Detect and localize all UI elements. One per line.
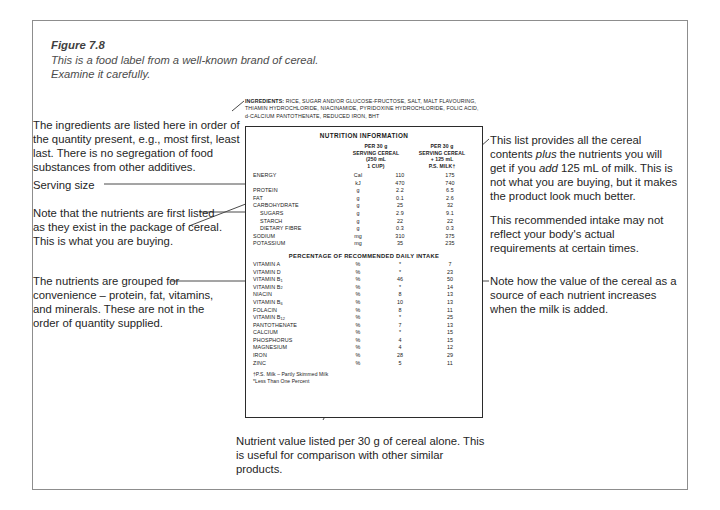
daily-intake-value-with-milk: 15 xyxy=(425,337,475,345)
nutrient-value-with-milk: 2.6 xyxy=(425,195,475,203)
daily-intake-name: VITAMIN B2 xyxy=(253,284,341,292)
nutrient-value-cereal: 2.2 xyxy=(375,187,425,195)
grouping-note-line3: and minerals. These are not in the xyxy=(33,302,248,316)
daily-intake-row: IRON%2829 xyxy=(253,352,475,360)
col1-line4: 1 CUP) xyxy=(343,163,409,170)
figure-caption-text: This is a food label from a well-known b… xyxy=(51,54,318,80)
daily-intake-unit: % xyxy=(341,307,375,315)
daily-intake-value-with-milk: 11 xyxy=(425,307,475,315)
nutrient-name: STARCH xyxy=(253,218,341,226)
daily-intake-value-cereal: 28 xyxy=(375,352,425,360)
nutrient-row: kJ470740 xyxy=(253,180,475,188)
footnote-milk: †P.S. Milk – Partly Skimmed Milk xyxy=(253,371,475,378)
daily-intake-row: ZINC%511 xyxy=(253,360,475,368)
nutrient-value-with-milk: 375 xyxy=(425,233,475,241)
daily-intake-value-cereal: 4 xyxy=(375,337,425,345)
nutrient-name: ENERGY xyxy=(253,172,341,180)
nutrient-name: PROTEIN xyxy=(253,187,341,195)
vitamin-subscript: 1 xyxy=(280,278,282,283)
annotation-bottom-note: Nutrient value listed per 30 g of cereal… xyxy=(236,434,546,476)
col2-line4: P.S. MILK† xyxy=(409,163,475,170)
daily-intake-unit: % xyxy=(341,291,375,299)
bottom-note-line1: Nutrient value listed per 30 g of cereal… xyxy=(236,434,546,448)
nutrient-name: POTASSIUM xyxy=(253,240,341,248)
daily-intake-value-with-milk: 13 xyxy=(425,291,475,299)
nutrient-name: FAT xyxy=(253,195,341,203)
figure-page: Figure 7.8 This is a food label from a w… xyxy=(0,0,720,510)
figure-caption: Figure 7.8 This is a food label from a w… xyxy=(51,38,351,82)
daily-intake-name: VITAMIN B6 xyxy=(253,299,341,307)
daily-intake-value-with-milk: 14 xyxy=(425,284,475,292)
grouping-note-line2: convenience – protein, fat, vitamins, xyxy=(33,288,248,302)
nutrient-row: FATg0.12.6 xyxy=(253,195,475,203)
milk-note-line2: contents plus the nutrients you will xyxy=(490,147,690,161)
daily-intake-row: MAGNESIUM%412 xyxy=(253,344,475,352)
daily-intake-row: NIACIN%813 xyxy=(253,291,475,299)
daily-intake-value-cereal: 10 xyxy=(375,299,425,307)
daily-intake-value-cereal: * xyxy=(375,284,425,292)
nutrient-row: PROTEINg2.26.5 xyxy=(253,187,475,195)
nutrient-value-with-milk: 22 xyxy=(425,218,475,226)
intake-note-line2: reflect your body's actual xyxy=(490,227,690,241)
nutrient-value-cereal: 22 xyxy=(375,218,425,226)
value-note-line1: Note how the value of the cereal as a xyxy=(490,274,695,288)
daily-intake-row: VITAMIN B12%*25 xyxy=(253,314,475,322)
daily-intake-value-cereal: * xyxy=(375,269,425,277)
nutrient-unit: g xyxy=(341,187,375,195)
nutrient-value-with-milk: 740 xyxy=(425,180,475,188)
daily-intake-unit: % xyxy=(341,299,375,307)
intake-note-line3: requirements at certain times. xyxy=(490,241,690,255)
intake-note-line1: This recommended intake may not xyxy=(490,213,690,227)
daily-intake-row: VITAMIN D%*23 xyxy=(253,269,475,277)
nutrient-unit: Cal xyxy=(341,172,375,180)
column-header-cereal: PER 30 g SERVING CEREAL (250 mL 1 CUP) xyxy=(343,143,409,169)
footnote-less-than-one: *Less Than One Percent xyxy=(253,378,475,385)
nutrient-value-cereal: 110 xyxy=(375,172,425,180)
daily-intake-value-cereal: * xyxy=(375,314,425,322)
nutrition-label-title: NUTRITION INFORMATION xyxy=(253,132,475,139)
milk-note-line3-post: 125 mL of milk. This is xyxy=(558,162,673,174)
daily-intake-unit: % xyxy=(341,284,375,292)
nutrient-row: CARBOHYDRATEg2532 xyxy=(253,202,475,210)
nutrient-value-cereal: 25 xyxy=(375,202,425,210)
nutrient-value-cereal: 2.9 xyxy=(375,210,425,218)
value-note-line2: source of each nutrient increases xyxy=(490,288,695,302)
daily-intake-value-with-milk: 23 xyxy=(425,269,475,277)
daily-intake-value-cereal: * xyxy=(375,261,425,269)
annotation-value-note: Note how the value of the cereal as a so… xyxy=(490,274,695,316)
daily-intake-value-cereal: 5 xyxy=(375,360,425,368)
nutrient-row: SUGARSg2.99.1 xyxy=(253,210,475,218)
package-note-line1: Note that the nutrients are first listed xyxy=(33,206,248,220)
ingredients-heading: INGREDIENTS: xyxy=(245,98,284,104)
daily-intake-value-cereal: 7 xyxy=(375,322,425,330)
milk-note-line2-post: the nutrients you will xyxy=(557,148,663,160)
daily-intake-unit: % xyxy=(341,322,375,330)
daily-intake-value-cereal: 8 xyxy=(375,307,425,315)
annotation-grouping-note: The nutrients are grouped for convenienc… xyxy=(33,274,248,330)
nutrient-name: SUGARS xyxy=(253,210,341,218)
figure-number: Figure 7.8 xyxy=(51,38,351,52)
nutrient-name: DIETARY FIBRE xyxy=(253,225,341,233)
daily-intake-name: VITAMIN B12 xyxy=(253,314,341,322)
nutrient-unit: g xyxy=(341,218,375,226)
package-note-line3: This is what you are buying. xyxy=(33,234,248,248)
ingredients-list: INGREDIENTS: RICE, SUGAR AND/OR GLUCOSE-… xyxy=(245,98,483,120)
bottom-note-line2: is useful for comparison with other simi… xyxy=(236,448,546,462)
grouping-note-line4: order of quantity supplied. xyxy=(33,316,248,330)
nutrient-value-with-milk: 175 xyxy=(425,172,475,180)
daily-intake-value-cereal: 46 xyxy=(375,276,425,284)
daily-intake-row: CALCIUM%*15 xyxy=(253,329,475,337)
milk-note-line2-pre: contents xyxy=(490,148,536,160)
nutrient-value-with-milk: 235 xyxy=(425,240,475,248)
vitamin-subscript: 12 xyxy=(280,316,285,321)
milk-note-line1: This list provides all the cereal xyxy=(490,133,690,147)
nutrient-value-cereal: 0.1 xyxy=(375,195,425,203)
daily-intake-name: FOLACIN xyxy=(253,307,341,315)
milk-note-line4: not what you are buying, but it makes xyxy=(490,175,690,189)
daily-intake-unit: % xyxy=(341,269,375,277)
nutrition-label: NUTRITION INFORMATION PER 30 g SERVING C… xyxy=(245,126,483,418)
nutrient-name xyxy=(253,180,341,188)
daily-intake-value-with-milk: 50 xyxy=(425,276,475,284)
daily-intake-unit: % xyxy=(341,337,375,345)
bottom-note-line3: products. xyxy=(236,462,546,476)
